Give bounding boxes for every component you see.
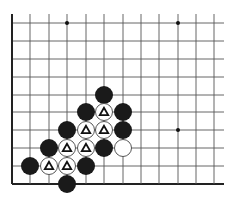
- black-stone[interactable]: [21, 157, 39, 175]
- black-stone[interactable]: [95, 86, 113, 104]
- black-stone[interactable]: [58, 175, 76, 193]
- black-stone[interactable]: [77, 157, 95, 175]
- white-stone[interactable]: [96, 104, 113, 121]
- board-grid: [12, 14, 224, 184]
- white-stone[interactable]: [78, 122, 95, 139]
- white-stone[interactable]: [59, 140, 76, 157]
- white-stone[interactable]: [78, 140, 95, 157]
- stones-layer: [21, 86, 132, 193]
- white-stone[interactable]: [96, 122, 113, 139]
- star-point-icon: [176, 21, 180, 25]
- white-stone[interactable]: [59, 158, 76, 175]
- white-stone[interactable]: [115, 140, 132, 157]
- white-stone[interactable]: [41, 158, 58, 175]
- star-point-icon: [65, 21, 69, 25]
- star-point-icon: [176, 128, 180, 132]
- black-stone[interactable]: [95, 139, 113, 157]
- black-stone[interactable]: [58, 121, 76, 139]
- black-stone[interactable]: [114, 121, 132, 139]
- black-stone[interactable]: [114, 103, 132, 121]
- go-board[interactable]: [0, 0, 237, 197]
- black-stone[interactable]: [77, 103, 95, 121]
- black-stone[interactable]: [40, 139, 58, 157]
